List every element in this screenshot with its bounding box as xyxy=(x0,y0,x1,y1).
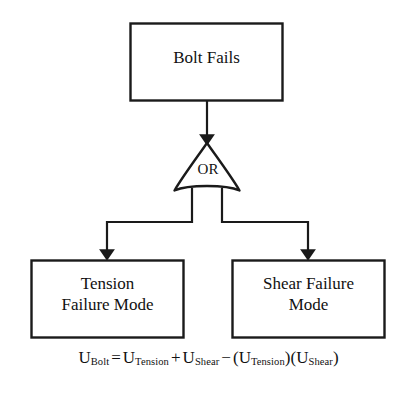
connector-gate-to-tension xyxy=(107,188,192,252)
shear-failure-box xyxy=(233,261,385,338)
equation-plus: + xyxy=(171,348,181,367)
equation-close-paren-2: ) xyxy=(333,348,339,367)
equation-term2-symbol: U xyxy=(183,348,195,367)
equation-term1-subscript: Tension xyxy=(135,356,169,367)
equation-term1-symbol: U xyxy=(123,348,135,367)
top-event-box xyxy=(131,24,283,101)
equation-lhs-subscript: Bolt xyxy=(91,356,110,367)
tension-failure-box xyxy=(32,261,184,338)
equation-term3-symbol: U xyxy=(239,348,251,367)
or-gate-shape xyxy=(175,143,240,191)
connector-gate-to-shear xyxy=(222,188,308,252)
equation-term3-subscript: Tension xyxy=(251,356,285,367)
equation-term2-subscript: Shear xyxy=(195,356,219,367)
fault-tree-diagram: Bolt Fails OR Tension Failure Mode Shear… xyxy=(0,0,417,393)
equation-minus: − xyxy=(221,348,231,367)
equation-equals: = xyxy=(111,348,121,367)
probability-equation: UBolt=UTension+UShear−(UTension)(UShear) xyxy=(0,348,417,368)
equation-term4-symbol: U xyxy=(296,348,308,367)
equation-lhs-symbol: U xyxy=(78,348,90,367)
equation-term4-subscript: Shear xyxy=(308,356,332,367)
diagram-canvas xyxy=(0,0,417,393)
